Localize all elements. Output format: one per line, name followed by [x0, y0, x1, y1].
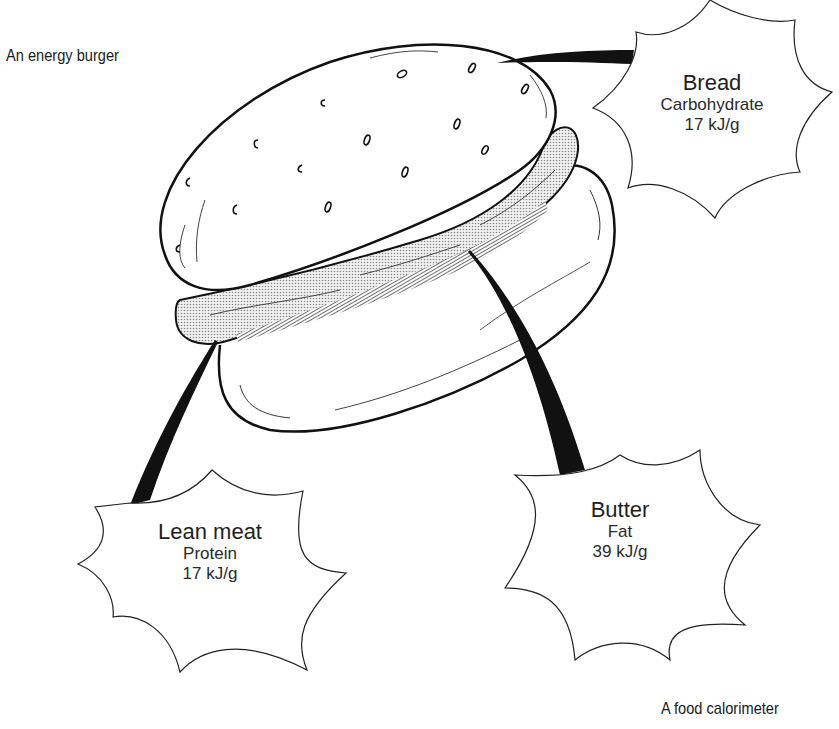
label-bread-name: Bread — [632, 70, 792, 95]
caption-food-calorimeter: A food calorimeter — [661, 699, 779, 719]
label-bread: Bread Carbohydrate 17 kJ/g — [632, 70, 792, 134]
label-bread-nutrient: Carbohydrate — [632, 95, 792, 115]
label-butter: Butter Fat 39 kJ/g — [555, 497, 685, 561]
label-butter-energy: 39 kJ/g — [555, 542, 685, 562]
label-lean-meat-energy: 17 kJ/g — [120, 564, 300, 584]
caption-energy-burger: An energy burger — [6, 46, 119, 66]
label-bread-energy: 17 kJ/g — [632, 115, 792, 135]
leader-bread — [497, 50, 634, 64]
label-lean-meat-name: Lean meat — [120, 519, 300, 544]
label-lean-meat: Lean meat Protein 17 kJ/g — [120, 519, 300, 583]
label-butter-name: Butter — [555, 497, 685, 522]
label-lean-meat-nutrient: Protein — [120, 544, 300, 564]
label-butter-nutrient: Fat — [555, 522, 685, 542]
